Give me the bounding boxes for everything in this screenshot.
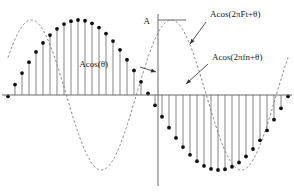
sample-dot bbox=[167, 126, 171, 130]
sample-dot bbox=[111, 39, 115, 43]
phase-annotation-label: Acos(θ) bbox=[79, 59, 108, 69]
discrete-annotation-label: Acos(2πfn+θ) bbox=[212, 52, 262, 62]
sample-dot bbox=[90, 21, 94, 25]
sample-dot bbox=[160, 115, 164, 119]
plot-canvas: A Acos(θ) Acos(2πFt+θ) Acos(2πfn+θ) bbox=[0, 0, 294, 192]
continuous-arrowhead bbox=[190, 39, 195, 44]
sample-dot bbox=[97, 26, 101, 30]
sample-dot bbox=[209, 167, 213, 171]
sample-dot bbox=[258, 138, 262, 142]
sample-dot bbox=[237, 161, 241, 165]
sample-dot bbox=[118, 48, 122, 52]
sample-dot bbox=[41, 41, 45, 45]
sample-dot bbox=[34, 50, 38, 54]
sample-dot bbox=[272, 118, 276, 122]
sample-dot bbox=[20, 71, 24, 75]
sample-dot bbox=[153, 103, 157, 107]
sample-dot bbox=[174, 136, 178, 140]
sample-dot bbox=[216, 168, 220, 172]
sample-dot bbox=[13, 83, 17, 87]
sample-dot bbox=[48, 33, 52, 37]
sample-dot bbox=[104, 32, 108, 36]
sample-dot bbox=[55, 27, 59, 31]
sample-dot bbox=[76, 18, 80, 22]
sample-dot bbox=[139, 80, 143, 84]
sample-dot bbox=[62, 22, 66, 26]
sample-dot bbox=[188, 153, 192, 157]
sampled-sinusoid-figure: A Acos(θ) Acos(2πFt+θ) Acos(2πfn+θ) bbox=[0, 0, 294, 192]
annotation-leader-group bbox=[140, 22, 208, 84]
sample-dot bbox=[251, 147, 255, 151]
sample-dot bbox=[181, 145, 185, 149]
sample-dot bbox=[230, 165, 234, 169]
continuous-annotation-label: Acos(2πFt+θ) bbox=[210, 9, 260, 19]
sample-dot bbox=[69, 19, 73, 23]
sample-dot bbox=[195, 159, 199, 163]
amplitude-label: A bbox=[144, 16, 151, 26]
sample-dot bbox=[202, 164, 206, 168]
sample-dot bbox=[223, 167, 227, 171]
sample-dot bbox=[125, 58, 129, 62]
phase-arrowhead bbox=[151, 69, 156, 73]
sample-dot bbox=[265, 129, 269, 133]
sample-dot bbox=[132, 69, 136, 73]
sample-dot bbox=[27, 60, 31, 64]
sample-dot bbox=[83, 19, 87, 23]
sample-dot bbox=[244, 155, 248, 159]
sample-dot bbox=[279, 106, 283, 110]
